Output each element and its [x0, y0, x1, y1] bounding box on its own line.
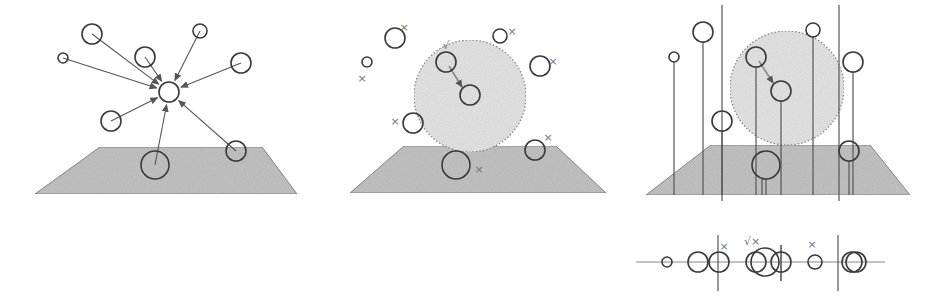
panel-projection	[646, 5, 910, 201]
ground-plane	[646, 145, 910, 195]
ground-plane	[35, 147, 297, 194]
cross-mark-icon: ×	[507, 25, 516, 38]
cross-mark-icon: ×	[399, 21, 408, 34]
attraction-arrow	[175, 31, 200, 80]
diagram-canvas: ××√××××× ×√××	[0, 0, 950, 304]
node-circle	[806, 23, 820, 37]
node-circle	[493, 29, 507, 43]
cross-mark-icon: ×	[357, 72, 366, 85]
check-mark-icon: √×	[744, 235, 760, 248]
cross-mark-icon: ×	[807, 238, 816, 251]
node-circle	[530, 56, 550, 76]
attraction-arrow	[111, 98, 157, 121]
attraction-arrow	[179, 101, 236, 151]
cross-mark-icon: ×	[719, 240, 728, 253]
cross-mark-icon: ×	[390, 115, 399, 128]
attraction-arrow	[92, 34, 159, 84]
node-circle	[669, 52, 679, 62]
cross-mark-icon: ×	[548, 55, 557, 68]
attraction-arrow	[145, 57, 162, 81]
node-circle	[159, 82, 179, 102]
panel-neighborhood: ××√×××××	[350, 21, 606, 193]
projection-axis-strip: ×√××	[636, 235, 885, 291]
node-circle	[403, 113, 423, 133]
panel-attraction	[35, 24, 297, 194]
cross-mark-icon: ×	[474, 163, 483, 176]
attraction-arrow	[63, 58, 157, 88]
neighborhood-sphere	[730, 31, 844, 145]
node-circle	[693, 22, 713, 42]
cross-mark-icon: ×	[543, 131, 552, 144]
check-mark-icon: √	[442, 39, 450, 52]
neighborhood-sphere	[414, 40, 526, 152]
node-circle	[362, 57, 372, 67]
node-circle	[843, 52, 863, 72]
